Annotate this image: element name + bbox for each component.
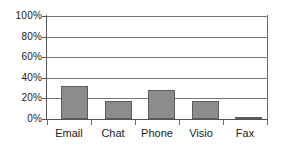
bar-email	[61, 86, 88, 119]
y-axis-tick-label: 100%	[16, 11, 42, 21]
x-axis-label-phone: Phone	[135, 127, 179, 139]
x-axis-tick-mark	[223, 120, 224, 125]
gridline-80	[47, 37, 268, 38]
plot-area	[47, 16, 268, 119]
bar-fax	[235, 117, 262, 119]
bar-chat	[105, 101, 132, 119]
bar-visio	[192, 101, 219, 119]
bar-chart-figure: 100% 80% 60% 40% 20% 0% Email Chat Phone…	[0, 0, 281, 148]
x-axis-tick-mark	[267, 120, 268, 125]
x-axis-line	[46, 119, 268, 120]
x-axis-tick-mark	[135, 120, 136, 125]
gridline-60	[47, 57, 268, 58]
x-axis-label-email: Email	[47, 127, 91, 139]
bar-phone	[148, 90, 175, 119]
y-axis-tick-label: 0%	[27, 114, 42, 124]
x-axis-label-visio: Visio	[179, 127, 223, 139]
gridline-100	[47, 16, 268, 17]
y-axis-tick-label: 20%	[21, 93, 42, 103]
y-axis-tick-label: 40%	[21, 73, 42, 83]
x-axis-label-chat: Chat	[91, 127, 135, 139]
x-axis-tick-mark	[47, 120, 48, 125]
x-axis-label-fax: Fax	[223, 127, 267, 139]
x-axis-tick-mark	[91, 120, 92, 125]
y-axis-tick-label: 60%	[21, 52, 42, 62]
y-axis-tick-label: 80%	[21, 32, 42, 42]
gridline-40	[47, 78, 268, 79]
x-axis-tick-mark	[179, 120, 180, 125]
